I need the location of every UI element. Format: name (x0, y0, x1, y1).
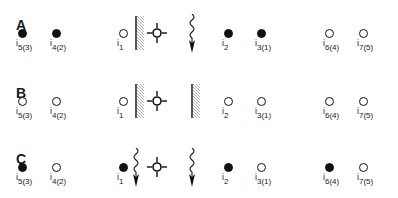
open-circle-icon (119, 97, 128, 106)
source-icon (147, 157, 167, 181)
node-i5: i5(3) (8, 97, 38, 127)
node-label: i4(2) (50, 107, 66, 118)
filled-circle-icon (325, 163, 334, 172)
filled-circle-icon (52, 29, 61, 38)
node-i6: i6(4) (315, 163, 345, 193)
barrier-icon (191, 84, 201, 122)
open-circle-icon (359, 163, 368, 172)
node-label: i1 (117, 107, 123, 118)
source-icon (147, 23, 167, 47)
node-i2: i2 (214, 29, 244, 59)
node-i4: i4(2) (42, 97, 72, 127)
open-circle-icon (119, 29, 128, 38)
filled-circle-icon (18, 29, 27, 38)
node-i7: i7(5) (349, 29, 379, 59)
node-i6: i6(4) (315, 29, 345, 59)
node-label: i4(2) (50, 39, 66, 50)
node-i4: i4(2) (42, 163, 72, 193)
barrier-icon (135, 84, 145, 122)
open-circle-icon (359, 29, 368, 38)
node-label: i2 (222, 173, 228, 184)
node-label: i6(4) (323, 107, 339, 118)
row-b: Bi5(3)i4(2)i1i2i3(1)i6(4)i7(5) (0, 86, 398, 152)
row-c: Ci5(3)i4(2)i1i2i3(1)i6(4)i7(5) (0, 152, 398, 198)
node-i5: i5(3) (8, 29, 38, 59)
node-label: i6(4) (323, 39, 339, 50)
open-circle-icon (325, 97, 334, 106)
node-label: i7(5) (357, 107, 373, 118)
node-i6: i6(4) (315, 97, 345, 127)
node-label: i1 (117, 39, 123, 50)
open-circle-icon (52, 97, 61, 106)
open-circle-icon (18, 97, 27, 106)
node-label: i3(1) (255, 107, 271, 118)
open-circle-icon (325, 29, 334, 38)
open-circle-icon (52, 163, 61, 172)
node-i5: i5(3) (8, 163, 38, 193)
open-circle-icon (257, 163, 266, 172)
node-i3: i3(1) (247, 29, 277, 59)
node-label: i6(4) (323, 173, 339, 184)
node-label: i7(5) (357, 173, 373, 184)
node-label: i7(5) (357, 39, 373, 50)
node-i3: i3(1) (247, 163, 277, 193)
wavy-arrow-icon (187, 14, 199, 58)
node-label: i5(3) (16, 39, 32, 50)
filled-circle-icon (224, 29, 233, 38)
open-circle-icon (359, 97, 368, 106)
filled-circle-icon (224, 163, 233, 172)
node-label: i2 (222, 39, 228, 50)
node-label: i4(2) (50, 173, 66, 184)
filled-circle-icon (18, 163, 27, 172)
source-icon (147, 91, 167, 115)
node-i3: i3(1) (247, 97, 277, 127)
row-a: Ai5(3)i4(2)i1i2i3(1)i6(4)i7(5) (0, 18, 398, 84)
node-label: i3(1) (255, 39, 271, 50)
node-i4: i4(2) (42, 29, 72, 59)
node-label: i5(3) (16, 107, 32, 118)
wavy-arrow-icon (131, 148, 143, 192)
node-i2: i2 (214, 163, 244, 193)
node-i7: i7(5) (349, 163, 379, 193)
node-label: i1 (117, 173, 123, 184)
barrier-icon (135, 16, 145, 54)
wavy-arrow-icon (187, 148, 199, 192)
node-i2: i2 (214, 97, 244, 127)
node-label: i2 (222, 107, 228, 118)
open-circle-icon (257, 97, 266, 106)
node-label: i5(3) (16, 173, 32, 184)
filled-circle-icon (257, 29, 266, 38)
node-label: i3(1) (255, 173, 271, 184)
filled-circle-icon (119, 163, 128, 172)
open-circle-icon (224, 97, 233, 106)
node-i7: i7(5) (349, 97, 379, 127)
